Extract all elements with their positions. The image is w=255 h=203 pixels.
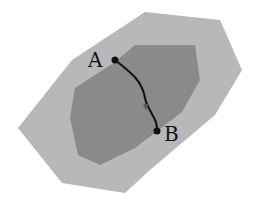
diagram-svg: A B [0, 0, 255, 203]
diagram-canvas: A B [0, 0, 255, 203]
point-a-label: A [87, 48, 103, 72]
point-a-marker [112, 57, 119, 64]
point-b-marker [154, 128, 161, 135]
point-b-label: B [164, 122, 179, 146]
